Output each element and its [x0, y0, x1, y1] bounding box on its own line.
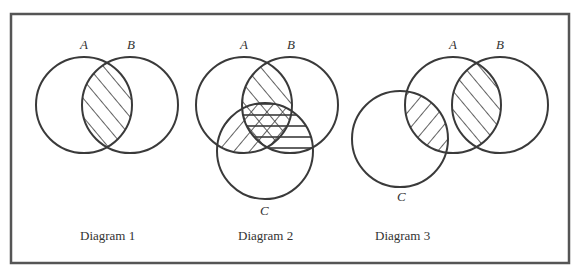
set-c-label: C [397, 189, 406, 204]
diagram-2-caption: Diagram 2 [238, 228, 293, 243]
set-a-label: A [239, 37, 248, 52]
diagram-2: A B C Diagram 2 [196, 37, 338, 243]
diagram-1: A B Diagram 1 [36, 37, 178, 243]
diagram-3: A B C Diagram 3 [352, 37, 548, 243]
set-b-label: B [287, 37, 295, 52]
venn-diagram-figure: A B Diagram 1 A B C Diagram 2 [0, 0, 581, 273]
set-a-label: A [448, 37, 457, 52]
set-b-label: B [496, 37, 504, 52]
set-a-label: A [79, 37, 88, 52]
diagram-1-caption: Diagram 1 [80, 228, 135, 243]
diagram-3-caption: Diagram 3 [375, 228, 430, 243]
set-b-label: B [127, 37, 135, 52]
set-c-label: C [260, 203, 269, 218]
